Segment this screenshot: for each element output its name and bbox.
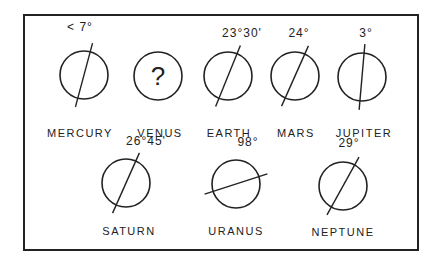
planet-name-venus: VENUS [137,127,182,139]
planet-name-mars: MARS [277,127,315,139]
planet-name-mercury: MERCURY [47,127,113,139]
planet-neptune [319,157,367,215]
question-mark-icon: ? [151,61,165,91]
planet-uranus [205,160,268,208]
planet-earth [204,45,252,106]
rotation-axis-icon [75,43,92,107]
planet-mercury [60,43,108,107]
planet-mars [271,46,319,106]
rotation-axis-icon [359,44,365,110]
rotation-axis-icon [216,45,241,106]
planet-venus: ? [134,52,182,100]
planet-name-jupiter: JUPITER [336,127,392,139]
planet-name-uranus: URANUS [208,225,263,237]
rotation-axis-icon [282,46,309,106]
rotation-axis-icon [113,153,140,213]
planet-name-saturn: SATURN [102,225,155,237]
tilt-label-jupiter: 3° [359,26,372,40]
rotation-axis-icon [205,174,268,194]
rotation-axis-icon [327,157,359,215]
tilt-label-mars: 24° [288,26,309,40]
planet-name-earth: EARTH [207,127,252,139]
tilt-label-earth: 23°30' [222,26,262,40]
tilt-label-mercury: < 7° [67,20,93,34]
planet-jupiter [338,44,386,110]
planet-saturn [102,153,150,213]
planet-name-neptune: NEPTUNE [311,226,374,238]
